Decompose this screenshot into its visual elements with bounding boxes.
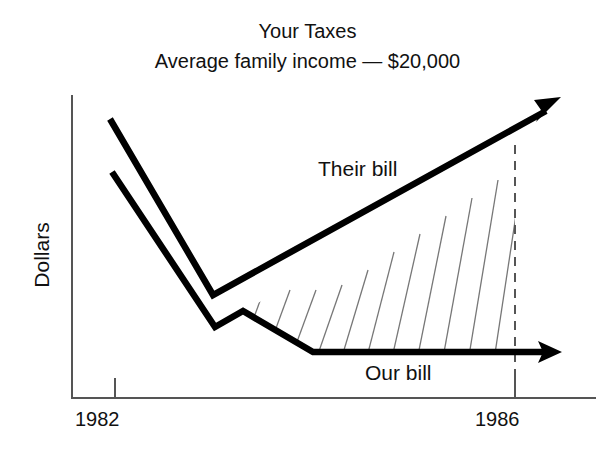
- chart-title: Your Taxes: [0, 20, 615, 43]
- series-label-their-bill: Their bill: [318, 157, 397, 181]
- series-label-our-bill: Our bill: [365, 361, 432, 385]
- chart-subtitle: Average family income — $20,000: [0, 50, 615, 73]
- y-axis-label: Dollars: [30, 195, 54, 315]
- x-tick-label-1982: 1982: [75, 408, 120, 431]
- tax-comparison-chart: Your Taxes Average family income — $20,0…: [0, 0, 615, 458]
- x-tick-label-1986: 1986: [475, 408, 520, 431]
- our-bill-line: [112, 172, 552, 352]
- their-bill-arrowhead: [534, 97, 561, 122]
- savings-wedge-hatching: [205, 150, 550, 380]
